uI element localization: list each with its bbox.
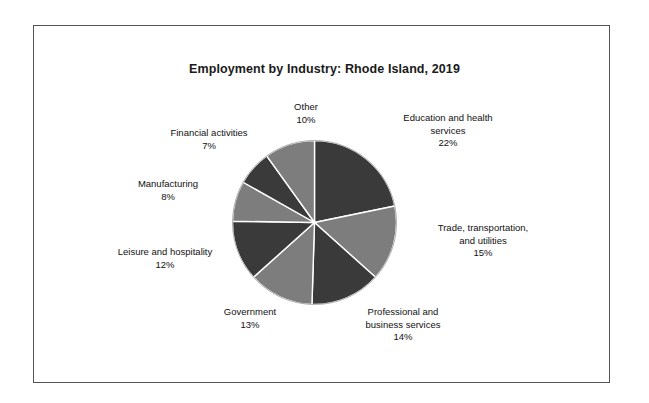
slice-percent: 13% [190,319,310,332]
slice-label-line-1: Manufacturing [138,178,198,189]
pie-svg [232,140,397,305]
slice-label-government: Government 13% [190,306,310,331]
slice-label-line-1: Leisure and hospitality [118,246,213,257]
slice-label-line-1: Other [294,101,318,112]
pie-slice-group [233,141,397,305]
slice-label-line-1: Trade, transportation, [438,222,528,233]
slice-percent: 8% [112,191,224,204]
slice-percent: 7% [145,140,273,153]
slice-percent: 15% [408,247,558,260]
slice-percent: 10% [266,114,346,127]
slice-label-line-1: Professional and [368,306,439,317]
slice-label-financial-activities: Financial activities 7% [145,127,273,152]
pie-chart [232,140,397,305]
slice-label-professional-and-business-services: Professional and business services 14% [338,306,468,344]
slice-label-line-1: Government [224,306,276,317]
slice-label-line-2: services [431,125,466,136]
slice-label-leisure-and-hospitality: Leisure and hospitality 12% [98,246,232,271]
slice-label-manufacturing: Manufacturing 8% [112,178,224,203]
slice-percent: 22% [378,137,518,150]
slice-label-line-2: and utilities [459,235,507,246]
slice-label-line-1: Financial activities [170,127,247,138]
slice-label-education-and-health-services: Education and health services 22% [378,112,518,150]
slice-label-line-2: business services [366,319,441,330]
chart-title: Employment by Industry: Rhode Island, 20… [0,62,649,76]
slice-label-other: Other 10% [266,101,346,126]
slice-percent: 14% [338,331,468,344]
slice-percent: 12% [98,259,232,272]
slice-label-line-1: Education and health [403,112,492,123]
slice-label-trade-transportation-and-utilities: Trade, transportation, and utilities 15% [408,222,558,260]
figure-root: Employment by Industry: Rhode Island, 20… [0,0,649,403]
